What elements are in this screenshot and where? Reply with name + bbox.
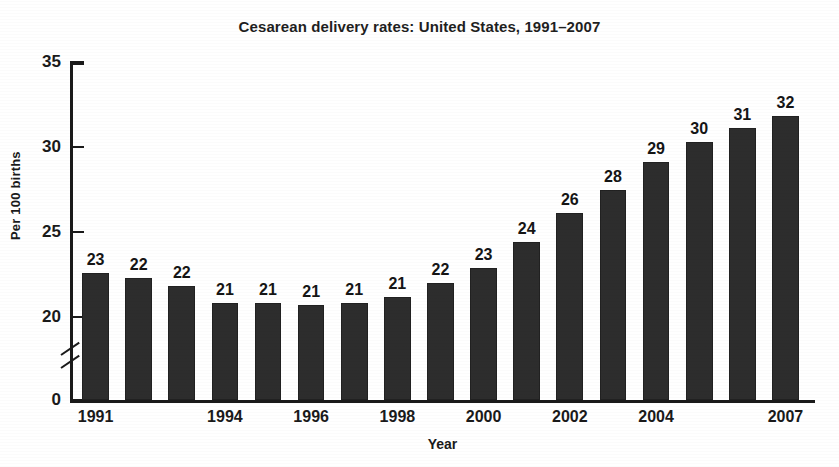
bar-value-label-2000: 23 [475, 246, 493, 264]
bar-1999[interactable] [427, 283, 454, 400]
figure-canvas: Cesarean delivery rates: United States, … [0, 0, 839, 467]
bar-2005[interactable] [686, 142, 713, 400]
plot-area: 020253035 232222212121212122232426282930… [70, 62, 815, 403]
y-tick-label-35: 35 [42, 52, 61, 72]
bar-1998[interactable] [384, 297, 411, 400]
bar-slot: 23 [462, 62, 505, 400]
y-tick-label-0: 0 [52, 390, 61, 410]
bar-value-label-1995: 21 [259, 281, 277, 299]
bar-slot: 29 [635, 62, 678, 400]
bar-value-label-2003: 28 [604, 168, 622, 186]
bar-value-label-2005: 30 [690, 120, 708, 138]
x-tick-label-2004: 2004 [638, 408, 674, 426]
bar-1994[interactable] [212, 303, 239, 400]
y-axis-title: Per 100 births [8, 151, 23, 240]
bar-value-label-1992: 22 [130, 256, 148, 274]
bar-value-label-1991: 23 [87, 251, 105, 269]
bar-slot: 26 [548, 62, 591, 400]
bar-slot: 21 [333, 62, 376, 400]
bar-value-label-2001: 24 [518, 220, 536, 238]
bar-1997[interactable] [341, 303, 368, 400]
bar-slot: 22 [117, 62, 160, 400]
bar-value-label-2002: 26 [561, 191, 579, 209]
bar-slot: 32 [764, 62, 807, 400]
bar-2004[interactable] [643, 162, 670, 400]
x-axis-tick-labels: 19911994199619982000200220042007 [70, 408, 815, 432]
chart-title: Cesarean delivery rates: United States, … [0, 18, 839, 35]
bar-2001[interactable] [513, 242, 540, 400]
bar-1992[interactable] [125, 278, 152, 400]
bar-2006[interactable] [729, 128, 756, 400]
bar-value-label-2007: 32 [777, 94, 795, 112]
bar-slot: 30 [678, 62, 721, 400]
bar-1995[interactable] [255, 303, 282, 400]
bar-value-label-1998: 21 [388, 275, 406, 293]
bar-slot: 21 [203, 62, 246, 400]
bar-1996[interactable] [298, 305, 325, 400]
y-tick-label-30: 30 [42, 137, 61, 157]
bar-slot: 23 [74, 62, 117, 400]
bar-value-label-1996: 21 [302, 283, 320, 301]
x-tick-label-2007: 2007 [768, 408, 804, 426]
bar-2003[interactable] [600, 190, 627, 401]
x-tick-label-1998: 1998 [380, 408, 416, 426]
bar-value-label-1997: 21 [345, 281, 363, 299]
x-axis-line [70, 400, 815, 403]
bar-value-label-1994: 21 [216, 281, 234, 299]
bar-slot: 31 [721, 62, 764, 400]
bar-2007[interactable] [772, 116, 799, 400]
bar-2002[interactable] [556, 213, 583, 400]
y-tick-label-20: 20 [42, 307, 61, 327]
bar-value-label-1993: 22 [173, 264, 191, 282]
bar-1991[interactable] [82, 273, 109, 400]
bar-series: 2322222121212121222324262829303132 [70, 62, 815, 400]
x-tick-label-1994: 1994 [207, 408, 243, 426]
bar-slot: 21 [246, 62, 289, 400]
bar-slot: 21 [290, 62, 333, 400]
bar-slot: 22 [419, 62, 462, 400]
bar-value-label-2004: 29 [647, 140, 665, 158]
bar-2000[interactable] [470, 268, 497, 400]
bar-value-label-1999: 22 [432, 261, 450, 279]
bar-slot: 21 [376, 62, 419, 400]
bar-value-label-2006: 31 [733, 106, 751, 124]
bar-slot: 28 [591, 62, 634, 400]
x-tick-label-2002: 2002 [552, 408, 588, 426]
bar-1993[interactable] [168, 286, 195, 400]
x-tick-label-2000: 2000 [466, 408, 502, 426]
bar-slot: 22 [160, 62, 203, 400]
x-tick-label-1996: 1996 [293, 408, 329, 426]
x-tick-label-1991: 1991 [78, 408, 114, 426]
y-tick-label-25: 25 [42, 222, 61, 242]
x-axis-title: Year [70, 436, 815, 452]
bar-slot: 24 [505, 62, 548, 400]
